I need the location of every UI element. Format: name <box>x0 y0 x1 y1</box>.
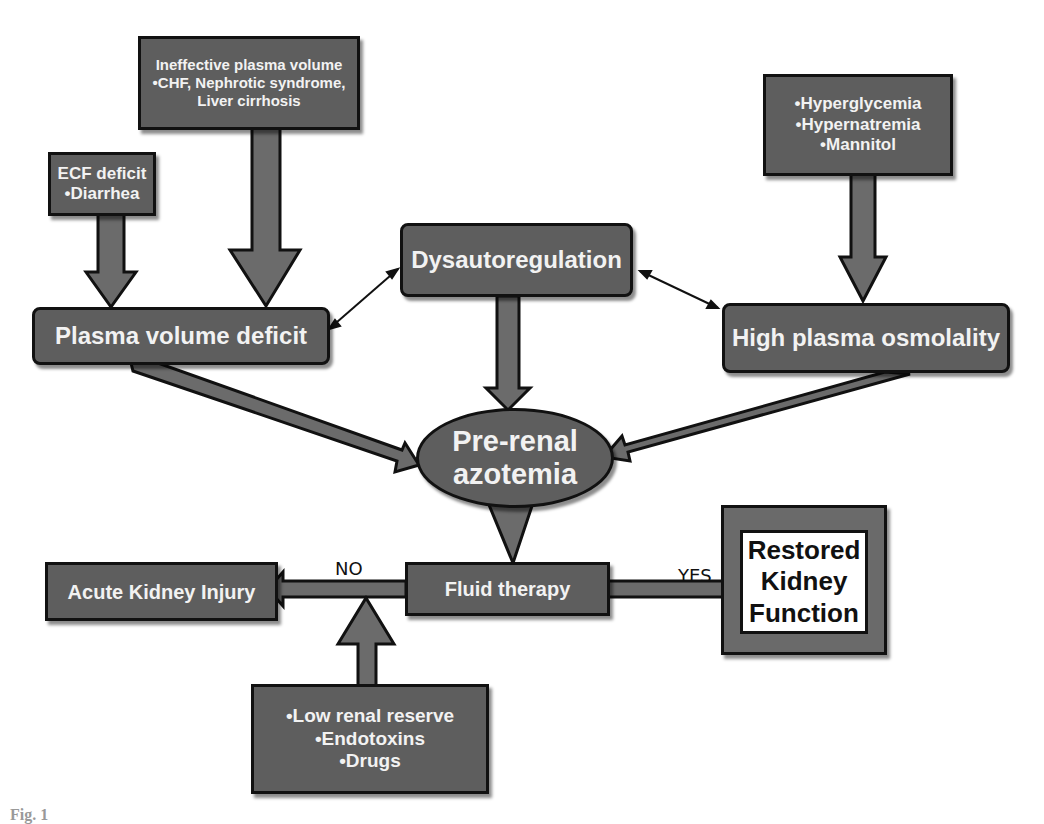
node-ecf-deficit: ECF deficit •Diarrhea <box>48 152 156 216</box>
node-text: Restored <box>748 535 861 566</box>
node-ineffective-plasma-volume: Ineffective plasma volume •CHF, Nephroti… <box>138 36 360 130</box>
node-high-plasma-osmolality: High plasma osmolality <box>722 303 1010 373</box>
arrow-ecf-to-plasma <box>86 214 136 307</box>
arrow-dysauto-to-prerenal <box>486 296 530 410</box>
node-text: •Diarrhea <box>65 184 140 204</box>
node-dysautoregulation: Dysautoregulation <box>400 223 633 297</box>
figure-caption: Fig. 1 <box>10 806 48 824</box>
node-pre-renal-azotemia: Pre-renal azotemia <box>416 408 614 508</box>
arrow-prerenal-to-fluid <box>487 500 534 563</box>
node-text: •Hypernatremia <box>795 115 920 135</box>
node-text: azotemia <box>453 458 577 491</box>
node-text: Liver cirrhosis <box>197 92 300 110</box>
arrow-osmolality-to-prerenal <box>604 372 910 461</box>
node-text: Pre-renal <box>452 425 578 458</box>
node-text: Ineffective plasma volume <box>156 56 343 74</box>
node-text: •Low renal reserve <box>286 705 454 728</box>
node-text: Dysautoregulation <box>411 246 622 275</box>
edge-label-no: NO <box>335 558 363 579</box>
arrow-ineffective-to-plasma <box>230 128 300 306</box>
node-text: Function <box>749 598 859 629</box>
node-fluid-therapy: Fluid therapy <box>405 562 610 616</box>
edge-label-yes: YES <box>678 565 712 586</box>
node-plasma-volume-deficit: Plasma volume deficit <box>32 307 330 365</box>
node-acute-kidney-injury: Acute Kidney Injury <box>45 562 278 621</box>
node-text: •CHF, Nephrotic syndrome, <box>153 74 346 92</box>
node-text: •Drugs <box>339 750 401 773</box>
node-text: Fluid therapy <box>445 577 571 601</box>
connector-plasma-dysauto <box>329 269 398 329</box>
node-text: •Endotoxins <box>315 728 425 751</box>
node-text: •Hyperglycemia <box>795 94 922 114</box>
node-text: Plasma volume deficit <box>55 322 307 351</box>
node-text: ECF deficit <box>58 164 147 184</box>
node-risk-factors: •Low renal reserve •Endotoxins •Drugs <box>251 684 489 794</box>
arrow-plasma-to-prerenal <box>131 363 419 472</box>
node-restored-inner: Restored Kidney Function <box>740 530 868 634</box>
connector-osmolality-dysauto <box>640 271 718 308</box>
node-text: •Mannitol <box>820 135 896 155</box>
node-text: Kidney <box>761 566 848 597</box>
arrow-osmcauses-to-osmolality <box>840 174 886 301</box>
node-text: High plasma osmolality <box>732 324 1000 353</box>
node-osmolality-causes: •Hyperglycemia •Hypernatremia •Mannitol <box>763 74 953 176</box>
node-text: Acute Kidney Injury <box>68 580 256 604</box>
arrow-risk-to-junction <box>338 598 394 686</box>
node-restored-kidney-function: Restored Kidney Function <box>721 505 887 655</box>
